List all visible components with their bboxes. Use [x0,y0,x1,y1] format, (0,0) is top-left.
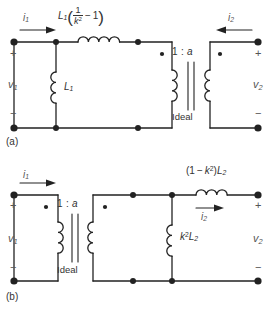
junction-dot-a-bottom-left [53,125,59,131]
transformer-primary-coil-b [58,222,63,253]
polarity-minus-b-in: − [10,262,16,273]
current-arrow-i2-b-head [214,205,224,212]
polarity-minus-a-out: − [255,108,261,119]
transformer-ratio-label-a: 1 : a [172,47,193,57]
polarity-plus-b-out: + [255,200,261,211]
series-inductor-label-b: (1 − k2)L2 [186,166,226,177]
polarity-plus-b-in: + [10,200,16,211]
series-inductor-coil-b [196,190,227,195]
current-arrow-i1-a-head [46,26,56,33]
terminal-dot-a-out-bottom [254,124,261,131]
winding-dot-b-secondary [103,205,107,209]
terminal-dot-b-out-top [254,191,261,198]
panel-caption-a: (a) [6,137,18,147]
junction-dot-a-bottom-mid [135,125,141,131]
transformer-primary-coil-a [172,70,177,101]
panel-b-schematic [0,156,274,313]
transformer-secondary-coil-a [205,70,210,101]
junction-dot-b-top-mid [130,192,136,198]
current-arrow-i1-b-head [46,179,56,186]
voltage-label-v2-b: v2 [253,233,263,245]
terminal-dot-a-in-bottom [10,124,17,131]
current-label-i1-b: i1 [23,170,29,181]
transformer-ideal-label-b: Ideal [57,265,78,275]
shunt-inductor-label-b: k2L2 [180,232,198,243]
winding-dot-a-primary [160,52,164,56]
current-label-i2-a: i2 [228,13,234,24]
series-inductor-label-a: L1(1k2 − 1) [58,6,104,26]
junction-dot-a-top-mid [135,39,141,45]
current-label-i1-a: i1 [23,13,29,24]
terminal-dot-b-in-bottom [10,277,17,284]
panel-caption-b: (b) [6,292,18,302]
junction-dot-b-top-right [169,192,175,198]
current-label-i2-b: i2 [201,212,207,223]
terminal-dot-b-in-top [10,191,17,198]
winding-dot-b-primary [44,205,48,209]
voltage-label-v2-a: v2 [253,79,263,91]
shunt-inductor-coil-a [51,72,56,103]
circuit-figure: i1 L1(1k2 − 1) L1 1 : a Ideal i2 + − v1 … [0,0,274,313]
voltage-label-v1-b: v1 [8,233,18,245]
transformer-ideal-label-a: Ideal [172,112,193,122]
current-arrow-i2-a-head [216,26,226,33]
polarity-minus-b-out: − [255,262,261,273]
shunt-inductor-coil-b [167,225,172,256]
terminal-dot-b-out-bottom [254,277,261,284]
transformer-secondary-coil-b [88,222,93,253]
transformer-ratio-label-b: 1 : a [57,199,78,209]
winding-dot-a-secondary [218,52,222,56]
shunt-inductor-label-a: L1 [64,82,73,93]
junction-dot-a-top-left [53,39,59,45]
junction-dot-b-bottom-mid [130,278,136,284]
polarity-minus-a-in: − [10,108,16,119]
voltage-label-v1-a: v1 [8,79,18,91]
polarity-plus-a-out: + [255,48,261,59]
terminal-dot-a-out-top [254,38,261,45]
series-inductor-coil-a [78,37,120,42]
polarity-plus-a-in: + [10,48,16,59]
terminal-dot-a-in-top [10,38,17,45]
junction-dot-b-bottom-right [169,278,175,284]
